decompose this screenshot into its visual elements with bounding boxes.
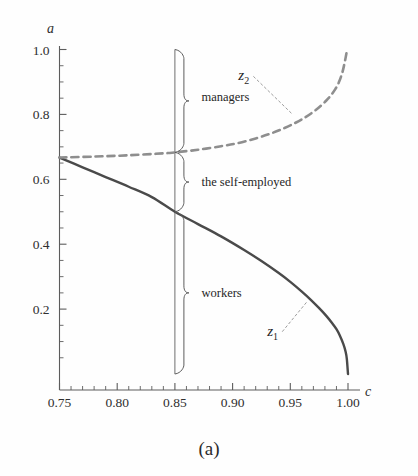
axes-layer: 0.750.800.850.900.951.000.20.40.60.81.0 bbox=[33, 43, 360, 411]
figure-panel: 0.750.800.850.900.951.000.20.40.60.81.0 … bbox=[0, 0, 418, 476]
z2-label-subscript: 2 bbox=[244, 75, 249, 86]
z1-label-subscript: 1 bbox=[273, 331, 278, 342]
region-label-managers: managers bbox=[201, 90, 249, 104]
y-axis-tick-label: 0.6 bbox=[33, 172, 50, 187]
region-label-workers: workers bbox=[201, 286, 241, 300]
curve-z1 bbox=[60, 158, 349, 374]
y-axis-tick-label: 0.4 bbox=[33, 237, 50, 252]
brace-workers bbox=[175, 212, 189, 374]
y-axis-title-glyph: a bbox=[47, 21, 54, 36]
brace-the-self-employed bbox=[175, 152, 189, 211]
x-axis-tick-label: 0.75 bbox=[48, 395, 72, 410]
z1-label: z1 bbox=[266, 301, 307, 342]
z1-label-text: z1 bbox=[266, 323, 278, 342]
chart-canvas: 0.750.800.850.900.951.000.20.40.60.81.0 … bbox=[0, 0, 418, 476]
z2-label-leader-line bbox=[253, 76, 292, 114]
y-axis-tick-label: 1.0 bbox=[33, 43, 50, 58]
x-axis-tick-label: 0.90 bbox=[221, 395, 245, 410]
region-label-the-self-employed: the self-employed bbox=[201, 175, 292, 189]
x-axis-tick-label: 1.00 bbox=[336, 395, 360, 410]
x-axis-tick-label: 0.85 bbox=[163, 395, 187, 410]
x-axis-title-glyph: c bbox=[365, 384, 372, 399]
z1-label-leader-line bbox=[282, 301, 307, 332]
figure-caption: (a) bbox=[198, 438, 219, 460]
curve-z2 bbox=[60, 51, 347, 157]
x-axis-tick-label: 0.95 bbox=[278, 395, 302, 410]
annotations-layer: managersthe self-employedworkers bbox=[175, 50, 292, 375]
x-axis-tick-label: 0.80 bbox=[105, 395, 129, 410]
brace-managers bbox=[175, 50, 189, 153]
z2-label-text: z2 bbox=[237, 67, 249, 86]
y-axis-tick-label: 0.8 bbox=[33, 107, 50, 122]
y-axis-tick-label: 0.2 bbox=[33, 302, 50, 317]
labels-layer: acz2z1(a) bbox=[47, 21, 372, 460]
